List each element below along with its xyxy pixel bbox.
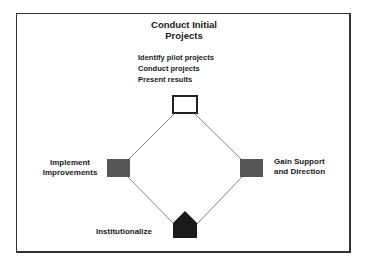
- top-node-box: [173, 96, 197, 113]
- right-node-box: [240, 159, 263, 177]
- cycle-diagram: [0, 0, 368, 265]
- connector-lines: [128, 112, 242, 225]
- bottom-node-pentagon: [173, 211, 197, 238]
- left-label-line-1: Implement: [35, 158, 105, 168]
- left-node-box: [107, 159, 130, 177]
- bottom-node-label: Institutionalize: [96, 227, 152, 237]
- right-node-label: Gain Support and Direction: [274, 157, 325, 177]
- left-node-label: Implement Improvements: [35, 158, 105, 178]
- connector-right-bottom: [196, 177, 242, 225]
- right-label-line-1: Gain Support: [274, 157, 325, 167]
- right-label-line-2: and Direction: [274, 167, 325, 177]
- connector-left-bottom: [128, 177, 175, 225]
- left-label-line-2: Improvements: [35, 168, 105, 178]
- connector-top-right: [193, 112, 242, 160]
- connector-top-left: [128, 112, 176, 160]
